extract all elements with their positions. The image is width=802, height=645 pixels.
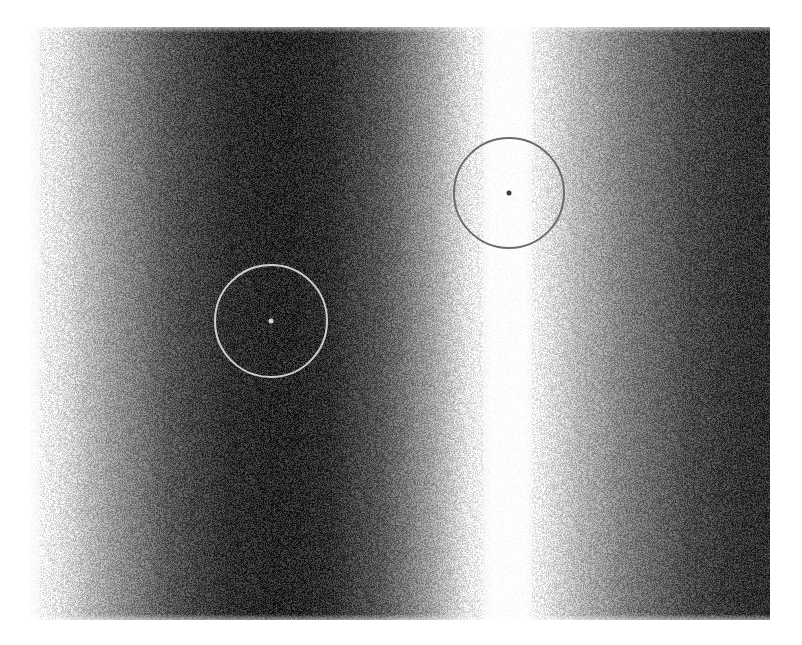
fringe-figure xyxy=(0,0,802,645)
interference-fringe-field xyxy=(30,27,770,620)
